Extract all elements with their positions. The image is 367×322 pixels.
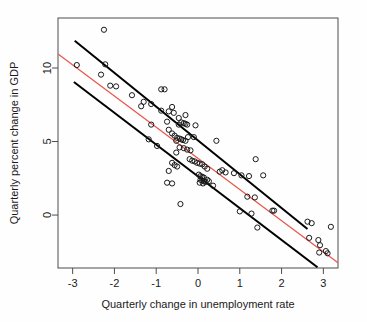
data-point: [169, 181, 174, 186]
x-tick-label: 0: [195, 277, 201, 289]
y-tick-label: 5: [41, 138, 53, 144]
y-tick-label: 10: [41, 62, 53, 74]
data-point: [307, 235, 312, 240]
data-point: [178, 201, 183, 206]
lower-bound-line: [74, 82, 318, 267]
data-point: [237, 209, 242, 214]
plot-frame: [58, 18, 338, 268]
y-tick-label: 0: [41, 212, 53, 218]
x-tick-label: -2: [110, 277, 120, 289]
data-point: [101, 27, 106, 32]
data-point: [164, 180, 169, 185]
regression-line: [58, 54, 338, 263]
data-point: [164, 119, 169, 124]
x-tick-label: -1: [151, 277, 161, 289]
x-tick-label: 2: [279, 277, 285, 289]
scatter-plot-figure: -3-2-101230510Quarterly change in unempl…: [0, 0, 367, 322]
data-point: [141, 99, 146, 104]
data-point: [246, 173, 251, 178]
x-tick-label: 3: [320, 277, 326, 289]
data-point: [108, 83, 113, 88]
data-point: [162, 87, 167, 92]
upper-bound-line: [75, 41, 308, 229]
data-point: [317, 243, 322, 248]
data-point: [252, 195, 257, 200]
data-point: [166, 168, 171, 173]
data-point: [193, 123, 198, 128]
data-point: [253, 157, 258, 162]
x-tick-label: -3: [68, 277, 78, 289]
data-point: [169, 104, 174, 109]
data-point: [328, 224, 333, 229]
data-point: [98, 72, 103, 77]
plot-area: [58, 27, 338, 267]
data-point: [317, 250, 322, 255]
data-point: [171, 110, 176, 115]
x-axis-title: Quarterly change in unemployment rate: [101, 298, 294, 310]
data-point: [255, 225, 260, 230]
data-point: [183, 112, 188, 117]
data-point: [249, 211, 254, 216]
data-point: [316, 237, 321, 242]
data-point: [129, 93, 134, 98]
data-point: [231, 171, 236, 176]
data-point: [214, 138, 219, 143]
y-axis-title: Quarterly percent change in GDP: [8, 62, 20, 225]
x-tick-label: 1: [237, 277, 243, 289]
data-point: [113, 84, 118, 89]
data-point: [74, 62, 79, 67]
chart-canvas: -3-2-101230510Quarterly change in unempl…: [0, 0, 367, 322]
data-point: [174, 150, 179, 155]
data-point: [261, 173, 266, 178]
data-point: [185, 135, 190, 140]
